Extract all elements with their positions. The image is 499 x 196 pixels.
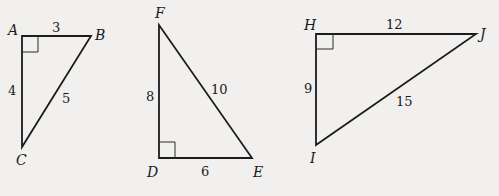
side-label-de: 6 — [201, 164, 209, 179]
vertex-label-d: D — [146, 164, 158, 180]
triangle-abc-edges — [22, 36, 91, 147]
right-angle-marker-h — [316, 34, 333, 49]
side-label-ab: 3 — [52, 20, 60, 35]
vertex-label-c: C — [16, 152, 27, 168]
right-angle-marker-a — [22, 36, 38, 52]
triangle-abc: A B C 3 4 5 — [6, 20, 105, 168]
triangle-hij-edges — [316, 34, 476, 145]
side-label-df: 8 — [146, 89, 154, 104]
triangle-hij: H J I 12 9 15 — [303, 17, 487, 166]
triangle-def: F D E 8 6 10 — [146, 5, 263, 180]
vertex-label-h: H — [303, 17, 317, 33]
vertex-label-a: A — [6, 22, 18, 38]
side-label-hj: 12 — [386, 17, 403, 32]
vertex-label-e: E — [252, 164, 263, 180]
side-label-ij: 15 — [396, 94, 413, 109]
vertex-label-j: J — [477, 26, 487, 42]
triangle-def-edges — [159, 25, 252, 158]
side-label-bc: 5 — [62, 91, 70, 106]
side-label-ac: 4 — [8, 83, 16, 98]
side-label-hi: 9 — [304, 81, 312, 96]
vertex-label-f: F — [154, 5, 166, 21]
side-label-ef: 10 — [211, 82, 228, 97]
triangles-diagram: A B C 3 4 5 F D E 8 6 10 H J I 12 9 15 — [0, 0, 499, 196]
vertex-label-b: B — [94, 27, 105, 43]
vertex-label-i: I — [309, 150, 316, 166]
right-angle-marker-d — [159, 142, 175, 158]
